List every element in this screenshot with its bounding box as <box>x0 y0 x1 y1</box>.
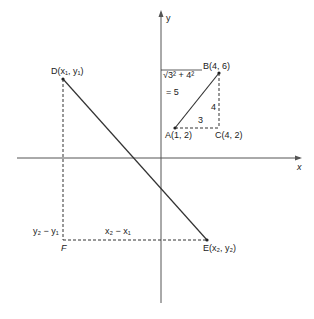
distance-result: = 5 <box>166 88 179 97</box>
point-D <box>61 77 64 80</box>
leg-3-label: 3 <box>198 116 203 125</box>
label-E: E(x₂, y₂) <box>203 244 236 253</box>
label-C: C(4, 2) <box>215 131 243 140</box>
y-axis-label: y <box>166 14 171 23</box>
label-D: D(x₁, y₁) <box>51 67 84 76</box>
dx-label: x₂ − x₁ <box>105 227 131 236</box>
segment-AB <box>175 73 219 128</box>
label-B: B(4, 6) <box>203 62 230 71</box>
point-B <box>217 71 220 74</box>
dy-label: y₂ − y₁ <box>33 227 59 236</box>
label-A: A(1, 2) <box>165 131 192 140</box>
leg-4-label: 4 <box>211 103 216 112</box>
y-axis-arrow-icon <box>159 10 164 17</box>
x-axis-arrow-icon <box>295 156 302 161</box>
diagram-graphics <box>0 0 314 319</box>
x-axis-label: x <box>297 163 302 172</box>
segment-DE <box>63 79 207 240</box>
point-E <box>205 238 208 241</box>
label-F: F <box>61 244 67 253</box>
distance-expression: √3² + 4² <box>163 71 194 80</box>
distance-formula-diagram: y x B(4, 6) A(1, 2) C(4, 2) √3² + 4² = 5… <box>0 0 314 319</box>
